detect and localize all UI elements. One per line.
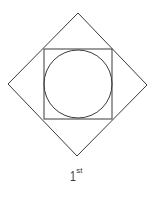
figure-label: 1st [70, 166, 83, 184]
label-ordinal-suffix: st [76, 167, 82, 175]
outer-diamond [8, 13, 147, 156]
label-number: 1 [70, 168, 76, 183]
inscribed-circle [44, 50, 112, 118]
